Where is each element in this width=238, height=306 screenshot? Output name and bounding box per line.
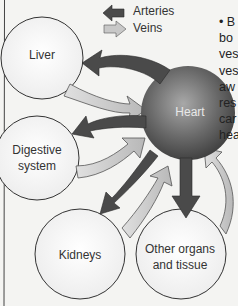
digestive-label-line1: Digestive bbox=[2, 143, 72, 158]
legend-veins-arrow-icon bbox=[104, 21, 126, 37]
other-organs-label-line2: and tissue bbox=[140, 258, 220, 273]
legend-veins-label: Veins bbox=[133, 21, 162, 35]
side-text-line: aw bbox=[219, 79, 238, 95]
legend-arteries-label: Arteries bbox=[133, 4, 174, 18]
kidneys-label: Kidneys bbox=[50, 248, 110, 263]
artery-arrow-heart-digestive bbox=[72, 115, 146, 138]
circulation-diagram: Arteries Veins Liver Heart Digestive sys… bbox=[0, 0, 238, 306]
side-text-line: res bbox=[219, 95, 238, 111]
side-text-line: bo bbox=[219, 30, 238, 46]
side-text-line: ves bbox=[219, 63, 238, 79]
liver-label: Liver bbox=[14, 48, 70, 63]
legend-arteries-arrow-icon bbox=[103, 5, 124, 21]
side-text-line: ves bbox=[219, 46, 238, 62]
side-text-column: • B bo ves ves aw res car hea bbox=[219, 14, 238, 144]
side-text-line: • B bbox=[219, 14, 238, 30]
other-organs-label-line1: Other organs bbox=[140, 242, 220, 257]
digestive-label-line2: system bbox=[2, 159, 72, 174]
side-text-line: car bbox=[219, 111, 238, 127]
side-text-line: hea bbox=[219, 127, 238, 143]
artery-arrow-heart-liver bbox=[82, 50, 170, 84]
digestive-circle bbox=[0, 116, 79, 200]
heart-label: Heart bbox=[170, 105, 210, 120]
